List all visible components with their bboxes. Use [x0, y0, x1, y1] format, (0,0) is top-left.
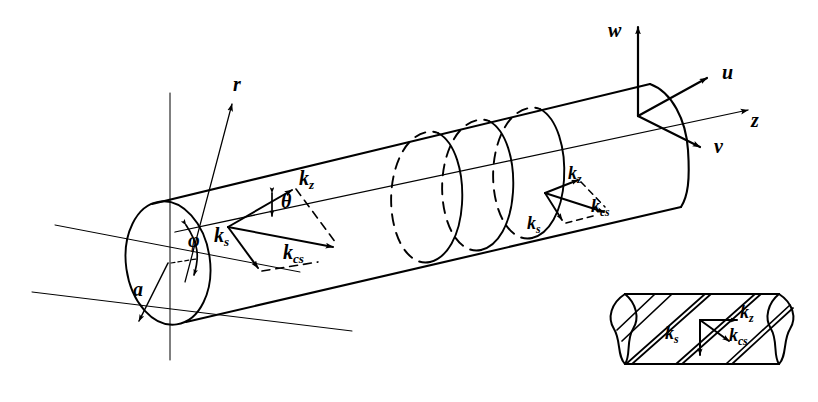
label-kz-inset-base: k: [740, 302, 749, 322]
label-axis-v: v: [714, 136, 723, 156]
label-angle-phi: φ: [188, 230, 200, 250]
label-kcs-inset: kcs: [729, 326, 748, 348]
label-ks-inset-base: k: [665, 323, 674, 343]
label-ks-left-sub: s: [224, 234, 229, 249]
cylinder-right-end-arc: [650, 84, 689, 207]
label-kz-right-sub: z: [577, 172, 581, 186]
label-kcs-right: kcs: [591, 197, 610, 219]
label-kz-left-base: k: [299, 167, 309, 189]
wavefront-ring-1: [391, 132, 462, 263]
label-ks-inset: ks: [665, 324, 678, 346]
label-kcs-left: kcs: [283, 242, 304, 266]
label-kcs-right-base: k: [591, 196, 600, 216]
label-axis-u: u: [722, 62, 733, 82]
coordinate-axes-group: [638, 27, 707, 147]
figure-canvas: w u v z r a φ θ kz ks kcs kz ks kcs kz k…: [0, 0, 818, 402]
label-angle-theta: θ: [281, 191, 291, 211]
cylinder-top-edge: [152, 84, 650, 204]
label-ks-left-base: k: [214, 224, 224, 246]
vector-kcs-left: [228, 227, 333, 247]
label-kz-left-sub: z: [309, 177, 314, 192]
label-kcs-right-sub: cs: [600, 205, 610, 219]
label-radius-a: a: [133, 279, 143, 299]
label-axis-r: r: [233, 74, 241, 94]
vector-ks-left: [228, 227, 258, 268]
label-kcs-left-sub: cs: [293, 251, 304, 266]
wavefront-ring-2: [442, 120, 513, 251]
inset-helix-lines: [617, 294, 793, 364]
inset-right-cap-outer: [779, 294, 793, 364]
label-axis-w: w: [608, 20, 621, 40]
closure-dash-kz-kcs-left: [296, 189, 336, 243]
label-ks-right: ks: [527, 214, 540, 236]
label-ks-left: ks: [214, 225, 229, 249]
label-ks-right-sub: s: [536, 222, 540, 236]
label-kz-inset-sub: z: [749, 311, 753, 325]
label-axis-z: z: [751, 110, 759, 130]
construction-line-b: [32, 292, 352, 331]
inset-unrolled-shell: [611, 294, 794, 364]
label-kz-inset: kz: [740, 303, 753, 325]
diagram-vector-graphic: [0, 0, 818, 402]
label-kz-left: kz: [299, 168, 314, 192]
label-kcs-inset-sub: cs: [738, 334, 748, 348]
label-kz-right: kz: [568, 164, 581, 186]
label-ks-right-base: k: [527, 213, 536, 233]
label-ks-inset-sub: s: [674, 332, 678, 346]
radius-arrow-a: [139, 263, 168, 321]
label-kz-right-base: k: [568, 163, 577, 183]
label-kcs-left-base: k: [283, 241, 293, 263]
label-kcs-inset-base: k: [729, 325, 738, 345]
center-tick-dash: [171, 259, 196, 263]
